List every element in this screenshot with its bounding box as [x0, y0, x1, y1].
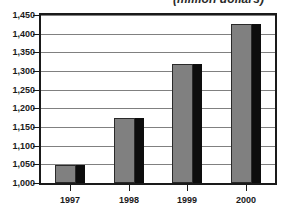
x-axis-tick-mark — [187, 185, 188, 191]
y-axis-tick-label: 1,250 — [1, 86, 35, 95]
bar — [55, 165, 76, 183]
x-axis-tick-label: 1998 — [99, 195, 159, 205]
y-axis-tick-label: 1,100 — [1, 142, 35, 151]
plot-area — [39, 13, 277, 185]
y-axis-tick-label: 1,050 — [1, 160, 35, 169]
bar-group — [114, 15, 144, 183]
bar — [231, 24, 252, 183]
y-axis-tick-label: 1,350 — [1, 48, 35, 57]
bar-group — [172, 15, 202, 183]
x-axis-tick-mark — [246, 185, 247, 191]
bar-shadow — [193, 64, 202, 183]
x-axis-tick-label: 1999 — [157, 195, 217, 205]
bar-shadow — [135, 118, 144, 183]
bar-group — [55, 15, 85, 183]
bar — [114, 118, 135, 183]
y-axis-tick-label: 1,450 — [1, 11, 35, 20]
y-axis-tick-label: 1,200 — [1, 104, 35, 113]
bar-chart: (million dollars) 1,0001,0501,1001,1501,… — [0, 0, 287, 218]
y-axis-tick-label: 1,000 — [1, 179, 35, 188]
plot-inner — [41, 15, 275, 183]
bar-group — [231, 15, 261, 183]
y-axis-tick-label: 1,300 — [1, 67, 35, 76]
y-axis-tick-label: 1,150 — [1, 123, 35, 132]
chart-title: (million dollars) — [150, 0, 287, 6]
bar-shadow — [252, 24, 261, 183]
x-axis-tick-label: 1997 — [40, 195, 100, 205]
bar — [172, 64, 193, 183]
y-axis-tick-label: 1,400 — [1, 30, 35, 39]
x-axis-tick-mark — [129, 185, 130, 191]
x-axis-tick-label: 2000 — [216, 195, 276, 205]
x-axis-tick-mark — [70, 185, 71, 191]
bar-shadow — [76, 165, 85, 183]
